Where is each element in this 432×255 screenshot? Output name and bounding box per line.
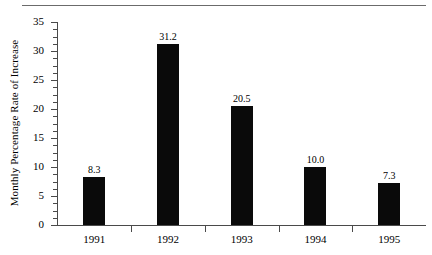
x-axis-category-label: 1994 — [285, 233, 345, 245]
bar-value-label: 31.2 — [138, 31, 198, 42]
bar-value-label: 20.5 — [212, 93, 272, 104]
bar-chart-figure: Monthly Percentage Rate of Increase 0510… — [0, 0, 432, 255]
x-axis-tick — [352, 226, 353, 232]
y-axis-tick-minor — [53, 131, 58, 132]
y-axis-tick-label: 0 — [0, 219, 44, 230]
bar-value-label: 8.3 — [64, 164, 124, 175]
y-axis-tick-minor — [53, 95, 58, 96]
x-axis-category-label: 1993 — [212, 233, 272, 245]
y-axis-tick-label: 30 — [0, 45, 44, 56]
y-axis-tick-label: 20 — [0, 103, 44, 114]
y-axis-tick-minor — [53, 182, 58, 183]
y-axis-tick-major — [51, 225, 58, 226]
y-axis-tick-major — [51, 138, 58, 139]
y-axis-tick-minor — [53, 87, 58, 88]
x-axis-tick — [205, 226, 206, 232]
bar-value-label: 7.3 — [359, 170, 419, 181]
bar — [83, 177, 105, 225]
y-axis-tick-minor — [53, 66, 58, 67]
x-axis-category-label: 1992 — [138, 233, 198, 245]
x-axis-tick — [279, 226, 280, 232]
top-horizontal-rule — [22, 5, 426, 6]
x-axis-tick — [131, 226, 132, 232]
y-axis-tick-minor — [53, 189, 58, 190]
bar — [157, 44, 179, 225]
y-axis-tick-minor — [53, 58, 58, 59]
x-axis-category-label: 1995 — [359, 233, 419, 245]
y-axis-tick-minor — [53, 153, 58, 154]
y-axis-tick-minor — [53, 145, 58, 146]
y-axis-tick-minor — [53, 29, 58, 30]
bar — [304, 167, 326, 225]
y-axis-tick-label: 15 — [0, 132, 44, 143]
y-axis-tick-label: 25 — [0, 74, 44, 85]
x-axis-category-label: 1991 — [64, 233, 124, 245]
y-axis-tick-label: 10 — [0, 161, 44, 172]
y-axis-tick-major — [51, 109, 58, 110]
y-axis-tick-minor — [53, 116, 58, 117]
y-axis-tick-minor — [53, 102, 58, 103]
y-axis-tick-major — [51, 51, 58, 52]
x-axis-line — [57, 225, 426, 226]
y-axis-tick-major — [51, 167, 58, 168]
y-axis-tick-major — [51, 80, 58, 81]
y-axis-tick-minor — [53, 203, 58, 204]
y-axis-tick-minor — [53, 174, 58, 175]
bar — [378, 183, 400, 225]
y-axis-tick-minor — [53, 160, 58, 161]
bar-value-label: 10.0 — [285, 154, 345, 165]
y-axis-tick-minor — [53, 218, 58, 219]
bar — [231, 106, 253, 225]
y-axis-tick-minor — [53, 124, 58, 125]
y-axis-tick-minor — [53, 44, 58, 45]
y-axis-tick-label: 35 — [0, 16, 44, 27]
y-axis-tick-minor — [53, 73, 58, 74]
y-axis-tick-label: 5 — [0, 190, 44, 201]
y-axis-tick-major — [51, 196, 58, 197]
y-axis-tick-minor — [53, 211, 58, 212]
y-axis-tick-major — [51, 22, 58, 23]
y-axis-tick-minor — [53, 37, 58, 38]
